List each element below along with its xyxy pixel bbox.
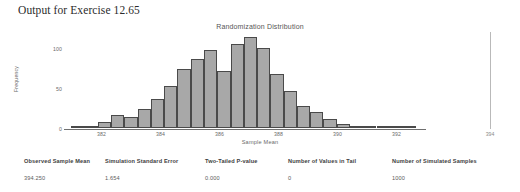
histogram-bar	[217, 71, 230, 129]
histogram-bar	[177, 69, 190, 128]
histogram-bar	[204, 50, 217, 128]
table-cell-value: 0.000	[205, 175, 220, 181]
histogram-bar	[284, 91, 297, 129]
table-cell-value: 1000	[392, 175, 405, 181]
observed-mean-line	[490, 32, 491, 129]
randomization-distribution-chart: Randomization Distribution Frequency 050…	[0, 20, 520, 152]
table-column-header: Two-Tailed P-value	[205, 158, 258, 164]
summary-statistics-table: Observed Sample MeanSimulation Standard …	[0, 158, 520, 192]
table-cell-value: 0	[288, 175, 291, 181]
table-column-header: Simulation Standard Error	[105, 158, 178, 164]
histogram-bar	[111, 115, 124, 129]
histogram-bar	[323, 119, 336, 129]
histogram-bar	[270, 74, 283, 128]
histogram-bar	[310, 112, 323, 128]
histogram-bar	[124, 117, 137, 128]
table-column-header: Observed Sample Mean	[24, 158, 90, 164]
histogram-bar	[244, 37, 257, 128]
histogram-bar	[138, 109, 151, 128]
y-tick-label: 50	[40, 86, 62, 92]
histogram-bar	[164, 86, 177, 128]
histogram-bar	[257, 48, 270, 128]
y-axis-label: Frequency	[13, 49, 19, 109]
y-tick-label: 0	[40, 126, 62, 132]
x-tick-label: 390	[325, 131, 349, 137]
histogram-bar	[337, 124, 350, 128]
page-title: Output for Exercise 12.65	[18, 4, 140, 16]
observed-mean-tick-label: 394	[478, 131, 502, 137]
x-tick-label: 382	[89, 131, 113, 137]
histogram-bar	[231, 44, 244, 128]
histogram-bar	[98, 122, 111, 128]
x-tick-label: 392	[384, 131, 408, 137]
histogram-bar	[191, 59, 204, 128]
histogram-bars	[72, 33, 420, 129]
y-tick-label: 100	[40, 46, 62, 52]
x-tick-label: 388	[266, 131, 290, 137]
plot-area: Frequency 050100 382384386388390392 Samp…	[0, 20, 520, 152]
histogram-bar	[151, 99, 164, 129]
table-cell-value: 394.250	[24, 175, 45, 181]
table-cell-value: 1.654	[105, 175, 120, 181]
x-axis-label: Sample Mean	[0, 139, 520, 145]
histogram-bar	[297, 106, 310, 128]
x-axis-line	[64, 129, 426, 130]
x-tick-label: 384	[148, 131, 172, 137]
table-column-header: Number of Values in Tail	[288, 158, 356, 164]
table-column-header: Number of Simulated Samples	[392, 158, 477, 164]
x-tick-label: 386	[207, 131, 231, 137]
